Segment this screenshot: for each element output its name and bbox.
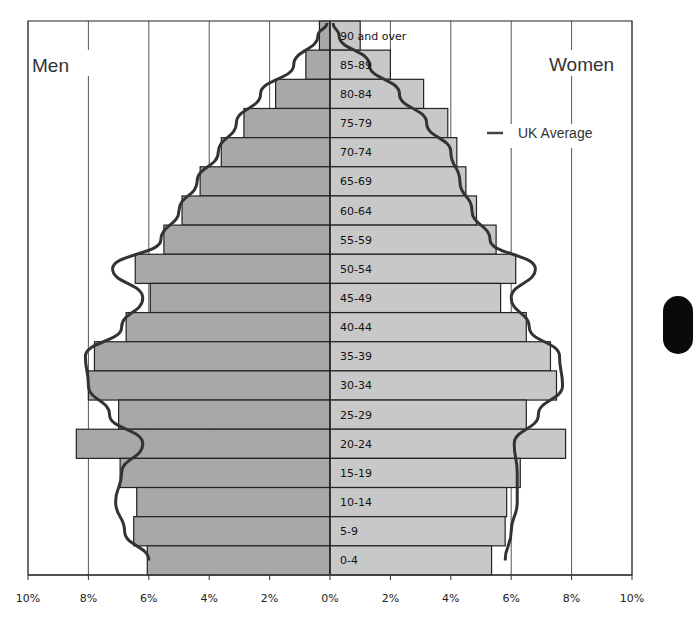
age-group-label: 35-39 [340,350,372,363]
x-tick-label: 2% [261,592,278,605]
x-tick-label: 6% [502,592,519,605]
men-bar [76,429,330,458]
x-tick-label: 0% [321,592,338,605]
men-bar [276,79,330,108]
age-group-label: 50-54 [340,263,372,276]
age-group-label: 90 and over [340,30,407,43]
men-bar [147,546,330,575]
x-tick-label: 4% [442,592,459,605]
men-bar [119,400,330,429]
age-group-label: 60-64 [340,205,372,218]
x-tick-label: 6% [140,592,157,605]
age-group-label: 20-24 [340,438,372,451]
age-group-label: 85-89 [340,59,372,72]
men-bar [135,254,330,283]
x-tick-label: 10% [620,592,644,605]
men-bar [244,108,330,137]
men-bar [88,371,330,400]
x-tick-label: 4% [200,592,217,605]
age-group-label: 40-44 [340,321,372,334]
men-bar [306,50,330,79]
x-tick-label: 8% [80,592,97,605]
men-bar [94,342,330,371]
x-tick-label: 10% [16,592,40,605]
age-group-label: 30-34 [340,379,372,392]
age-group-label: 65-69 [340,175,372,188]
age-group-label: 70-74 [340,146,372,159]
bars [76,21,565,575]
age-group-label: 75-79 [340,117,372,130]
age-group-label: 15-19 [340,467,372,480]
women-label: Women [549,54,614,75]
age-group-label: 25-29 [340,409,372,422]
x-tick-label: 8% [563,592,580,605]
men-bar [221,138,330,167]
age-group-label: 5-9 [340,525,358,538]
men-bar [137,488,330,517]
men-bar [120,458,330,487]
men-bar [126,313,330,342]
x-axis: 10%8%6%4%2%0%2%4%6%8%10% [16,575,644,605]
men-bar [134,517,330,546]
men-label: Men [32,55,69,76]
age-group-label: 80-84 [340,88,372,101]
cropped-dark-shape [663,296,693,354]
age-group-label: 10-14 [340,496,372,509]
age-group-label: 0-4 [340,554,358,567]
men-bar [200,167,330,196]
legend-label: UK Average [518,125,593,141]
x-tick-label: 2% [382,592,399,605]
age-group-label: 55-59 [340,234,372,247]
men-bar [164,225,330,254]
men-bar [182,196,330,225]
age-group-label: 45-49 [340,292,372,305]
men-bar [150,283,330,312]
